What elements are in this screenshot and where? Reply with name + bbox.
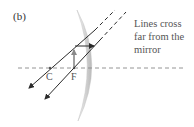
annotation-line-1: Lines cross: [134, 18, 182, 29]
annotation-line-2: far from the: [134, 31, 184, 42]
panel-label: (b): [13, 10, 26, 23]
reflected-ray-1: [29, 30, 95, 88]
concave-mirror-ray-diagram: (b) C F Lines cross far from the mirror: [0, 0, 194, 127]
virtual-extension-2: [100, 12, 126, 40]
concave-mirror: [77, 10, 92, 121]
focal-label: F: [71, 71, 77, 82]
annotation-line-3: mirror: [134, 44, 161, 55]
